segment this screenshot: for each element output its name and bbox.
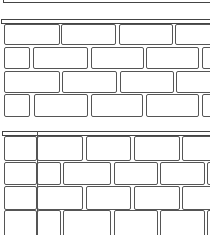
brick (4, 136, 37, 161)
brick (4, 94, 30, 117)
brick (37, 210, 61, 235)
brick (34, 94, 88, 117)
brick (37, 162, 61, 185)
brick (160, 210, 205, 235)
brick (175, 24, 210, 45)
brick (114, 210, 158, 235)
brick (134, 186, 180, 210)
brick (33, 47, 88, 69)
brick (4, 24, 60, 45)
brick (86, 136, 131, 161)
wall-bottom-divider (37, 131, 38, 235)
brick (61, 24, 116, 45)
brick (91, 47, 144, 69)
brick (207, 162, 210, 185)
brick (202, 94, 210, 117)
brick (4, 71, 60, 93)
brick (62, 71, 117, 93)
brick (4, 47, 30, 69)
brick (4, 210, 37, 235)
brick (134, 136, 180, 161)
brick (4, 162, 37, 185)
brick (4, 186, 37, 210)
brick (63, 162, 111, 185)
brick (146, 47, 199, 69)
brick (176, 71, 210, 93)
brick (63, 210, 111, 235)
brick (160, 162, 205, 185)
brick (37, 136, 83, 161)
brick (114, 162, 158, 185)
top-frame (3, 0, 210, 3)
brick (119, 24, 173, 45)
brick (86, 186, 131, 210)
brick (182, 136, 210, 161)
brick (120, 71, 174, 93)
brick (37, 186, 83, 210)
brick (202, 47, 210, 69)
brick (91, 94, 143, 117)
brick (146, 94, 199, 117)
brick (182, 186, 210, 210)
brick (207, 210, 210, 235)
